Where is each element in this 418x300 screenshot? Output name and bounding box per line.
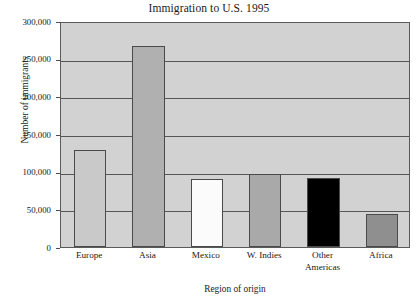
- y-tick-mark: [56, 248, 60, 249]
- x-axis-title: Region of origin: [60, 284, 410, 294]
- y-tick-label: 100,000: [0, 167, 51, 177]
- x-tick-label: Asia: [118, 250, 176, 262]
- x-tick-label-line: Africa: [352, 250, 410, 262]
- x-tick-label-line: Other: [293, 250, 351, 262]
- x-axis-ticks: EuropeAsiaMexicoW. IndiesOtherAmericasAf…: [60, 250, 410, 284]
- y-tick-label: 0: [0, 243, 51, 253]
- bar-mexico[interactable]: [191, 179, 224, 247]
- bar-europe[interactable]: [74, 150, 107, 247]
- chart-title: Immigration to U.S. 1995: [0, 2, 418, 14]
- y-tick-label: 200,000: [0, 92, 51, 102]
- y-tick-label: 50,000: [0, 205, 51, 215]
- x-tick-label: Europe: [60, 250, 118, 262]
- x-tick-label: W. Indies: [235, 250, 293, 262]
- bar-series: [61, 23, 409, 247]
- y-tick-label: 250,000: [0, 54, 51, 64]
- bar-other-americas[interactable]: [307, 178, 340, 247]
- x-tick-label-line: Americas: [293, 262, 351, 274]
- y-tick-label: 150,000: [0, 130, 51, 140]
- x-tick-label-line: Asia: [118, 250, 176, 262]
- y-axis-ticks: 050,000100,000150,000200,000250,000300,0…: [0, 0, 60, 300]
- bar-chart-figure: Immigration to U.S. 1995 Number of immig…: [0, 0, 418, 300]
- x-tick-label-line: Europe: [60, 250, 118, 262]
- x-tick-label-line: Mexico: [177, 250, 235, 262]
- bar-asia[interactable]: [132, 46, 165, 247]
- x-tick-label-line: W. Indies: [235, 250, 293, 262]
- x-tick-label: Africa: [352, 250, 410, 262]
- x-tick-label: Mexico: [177, 250, 235, 262]
- y-tick-label: 300,000: [0, 17, 51, 27]
- plot-area: [60, 22, 410, 248]
- bar-africa[interactable]: [366, 214, 399, 247]
- x-tick-label: OtherAmericas: [293, 250, 351, 273]
- bar-w-indies[interactable]: [249, 174, 282, 247]
